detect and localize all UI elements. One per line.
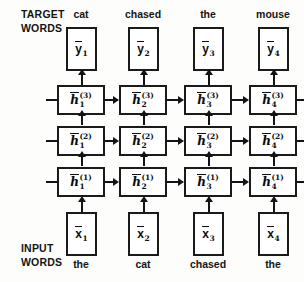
hidden-cell-l1-t1[interactable]: h(1)1 xyxy=(57,167,105,197)
arrowhead-l3-t1-t2 xyxy=(113,96,119,104)
connector-x-to-l1-t3 xyxy=(208,201,210,212)
target-words-label-line2: WORDS xyxy=(21,22,65,34)
connector-l1-to-l2-t1 xyxy=(81,156,83,166)
connector-l3-in-t1 xyxy=(46,99,57,101)
output-node-3-label: y3 xyxy=(202,41,214,58)
output-node-3[interactable]: y3 xyxy=(193,27,224,71)
input-node-2-label: x2 xyxy=(137,226,149,243)
hidden-cell-l2-t1-label: h(2)1 xyxy=(70,133,92,150)
arrowhead-l1-to-l2-t3 xyxy=(205,151,213,157)
output-node-4[interactable]: y4 xyxy=(258,27,289,71)
input-node-4-label: x4 xyxy=(267,226,279,243)
hidden-cell-l1-t4-label: h(1)4 xyxy=(262,174,284,191)
rnn-diagram-canvas: TARGET WORDS INPUT WORDS cat chased the … xyxy=(0,0,304,282)
output-node-1[interactable]: y1 xyxy=(66,27,97,71)
arrowhead-l3-to-y-2 xyxy=(140,69,148,75)
connector-l3-to-y-3 xyxy=(208,74,210,85)
input-node-4[interactable]: x4 xyxy=(258,212,289,256)
hidden-cell-l2-t2-label: h(2)2 xyxy=(132,133,154,150)
arrowhead-l2-t3-t4 xyxy=(243,137,249,145)
connector-l3-t1-t2 xyxy=(105,99,113,101)
connector-l2-to-l3-t2 xyxy=(143,115,145,125)
arrowhead-l1-t3-t4 xyxy=(243,178,249,186)
target-words-label: TARGET WORDS xyxy=(21,8,65,34)
connector-l1-to-l2-t2 xyxy=(143,156,145,166)
arrowhead-l2-t1-t2 xyxy=(113,137,119,145)
input-node-2[interactable]: x2 xyxy=(128,212,159,256)
input-word-3: chased xyxy=(190,258,226,270)
connector-l2-to-l3-t4 xyxy=(273,115,275,125)
connector-l3-to-y-1 xyxy=(81,74,83,85)
input-words-label-line2: WORDS xyxy=(21,256,62,268)
output-node-4-label: y4 xyxy=(267,41,279,58)
connector-l1-to-l2-t4 xyxy=(273,156,275,166)
input-node-1[interactable]: x1 xyxy=(66,212,97,256)
connector-l3-t3-t4 xyxy=(232,99,243,101)
arrowhead-l2-to-l3-t3 xyxy=(205,110,213,116)
arrowhead-l3-to-y-4 xyxy=(270,69,278,75)
arrowhead-l3-to-y-1 xyxy=(78,69,86,75)
hidden-cell-l2-t3-label: h(2)3 xyxy=(197,133,219,150)
connector-x-to-l1-t1 xyxy=(81,201,83,212)
hidden-cell-l3-t1-label: h(3)1 xyxy=(70,92,92,109)
arrowhead-l2-to-l3-t2 xyxy=(140,110,148,116)
connector-l3-t2-t3 xyxy=(167,99,178,101)
arrowhead-l3-t3-t4 xyxy=(243,96,249,104)
connector-l2-in-t1 xyxy=(46,140,57,142)
arrowhead-l1-to-l2-t4 xyxy=(270,151,278,157)
connector-l3-to-y-4 xyxy=(273,74,275,85)
arrowhead-x-to-l1-t4 xyxy=(270,196,278,202)
arrowhead-l1-to-l2-t2 xyxy=(140,151,148,157)
hidden-cell-l1-t4[interactable]: h(1)4 xyxy=(249,167,297,197)
arrowhead-l2-to-l3-t1 xyxy=(78,110,86,116)
arrowhead-l1-to-l2-t1 xyxy=(78,151,86,157)
input-words-label: INPUT WORDS xyxy=(21,242,62,268)
arrowhead-x-to-l1-t2 xyxy=(140,196,148,202)
connector-l2-to-l3-t3 xyxy=(208,115,210,125)
hidden-cell-l1-t3[interactable]: h(1)3 xyxy=(184,167,232,197)
target-words-label-line1: TARGET xyxy=(21,8,65,20)
hidden-cell-l3-t2-label: h(3)2 xyxy=(132,92,154,109)
hidden-cell-l2-t4-label: h(2)4 xyxy=(262,133,284,150)
arrowhead-l1-t1-t2 xyxy=(113,178,119,186)
arrowhead-l1-t2-t3 xyxy=(178,178,184,186)
hidden-cell-l1-t2[interactable]: h(1)2 xyxy=(119,167,167,197)
connector-l1-to-l2-t3 xyxy=(208,156,210,166)
hidden-cell-l1-t3-label: h(1)3 xyxy=(197,174,219,191)
connector-l1-t2-t3 xyxy=(167,181,178,183)
target-word-4: mouse xyxy=(256,8,290,20)
arrowhead-l3-to-y-3 xyxy=(205,69,213,75)
arrowhead-l2-t2-t3 xyxy=(178,137,184,145)
hidden-cell-l3-t4-label: h(3)4 xyxy=(262,92,284,109)
arrowhead-l3-t2-t3 xyxy=(178,96,184,104)
connector-l1-t1-t2 xyxy=(105,181,113,183)
connector-l1-in-t1 xyxy=(46,181,57,183)
hidden-cell-l3-t3-label: h(3)3 xyxy=(197,92,219,109)
output-node-1-label: y1 xyxy=(75,41,87,58)
connector-l1-t3-t4 xyxy=(232,181,243,183)
connector-l2-t1-t2 xyxy=(105,140,113,142)
input-word-1: the xyxy=(73,258,89,270)
hidden-cell-l1-t2-label: h(1)2 xyxy=(132,174,154,191)
connector-x-to-l1-t2 xyxy=(143,201,145,212)
connector-l2-t3-t4 xyxy=(232,140,243,142)
target-word-3: the xyxy=(200,8,216,20)
hidden-cell-l1-t1-label: h(1)1 xyxy=(70,174,92,191)
input-node-1-label: x1 xyxy=(75,226,87,243)
input-word-2: cat xyxy=(135,258,150,270)
connector-l2-to-l3-t1 xyxy=(81,115,83,125)
output-node-2-label: y2 xyxy=(137,41,149,58)
input-word-4: the xyxy=(265,258,281,270)
arrowhead-x-to-l1-t1 xyxy=(78,196,86,202)
output-node-2[interactable]: y2 xyxy=(128,27,159,71)
input-node-3-label: x3 xyxy=(202,226,214,243)
arrowhead-x-to-l1-t3 xyxy=(205,196,213,202)
connector-l3-to-y-2 xyxy=(143,74,145,85)
arrowhead-l2-to-l3-t4 xyxy=(270,110,278,116)
input-words-label-line1: INPUT xyxy=(21,242,54,254)
connector-x-to-l1-t4 xyxy=(273,201,275,212)
connector-l2-t2-t3 xyxy=(167,140,178,142)
connector-l2-out-t4 xyxy=(297,140,304,142)
input-node-3[interactable]: x3 xyxy=(193,212,224,256)
connector-l3-out-t4 xyxy=(297,99,304,101)
